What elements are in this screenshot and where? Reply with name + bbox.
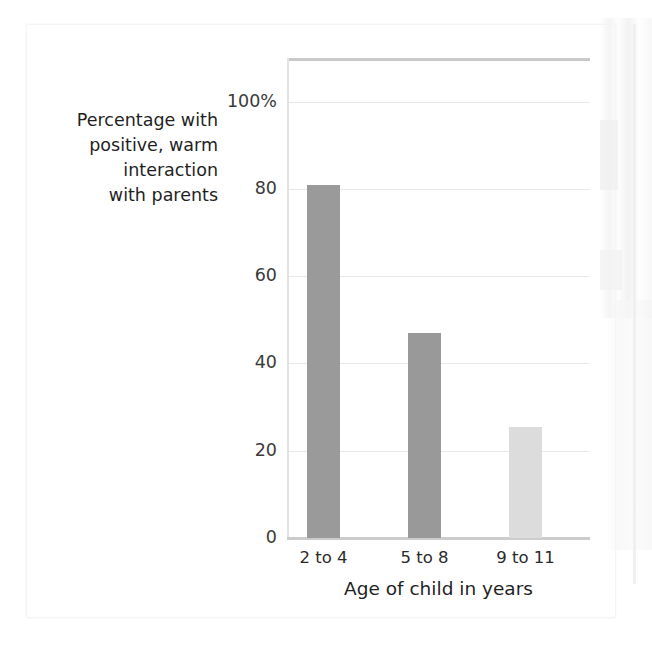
bars-group bbox=[287, 58, 590, 538]
bar-chart-figure: Percentage with positive, warm interacti… bbox=[0, 0, 652, 647]
bar-9-to-11[interactable] bbox=[509, 427, 542, 538]
x-tick-label-2-to-4: 2 to 4 bbox=[269, 548, 379, 568]
x-axis-title: Age of child in years bbox=[287, 578, 590, 600]
y-tick-label: 80 bbox=[215, 180, 277, 198]
y-tick-label: 100% bbox=[215, 93, 277, 111]
y-axis-title: Percentage with positive, warm interacti… bbox=[36, 108, 218, 208]
y-tick-label: 60 bbox=[215, 267, 277, 285]
x-tick-label-5-to-8: 5 to 8 bbox=[370, 548, 480, 568]
x-tick-label-9-to-11: 9 to 11 bbox=[471, 548, 581, 568]
y-tick-label: 20 bbox=[215, 442, 277, 460]
bar-5-to-8[interactable] bbox=[408, 333, 441, 538]
y-tick-label: 40 bbox=[215, 354, 277, 372]
y-tick-label: 0 bbox=[215, 529, 277, 547]
bar-2-to-4[interactable] bbox=[307, 185, 340, 538]
